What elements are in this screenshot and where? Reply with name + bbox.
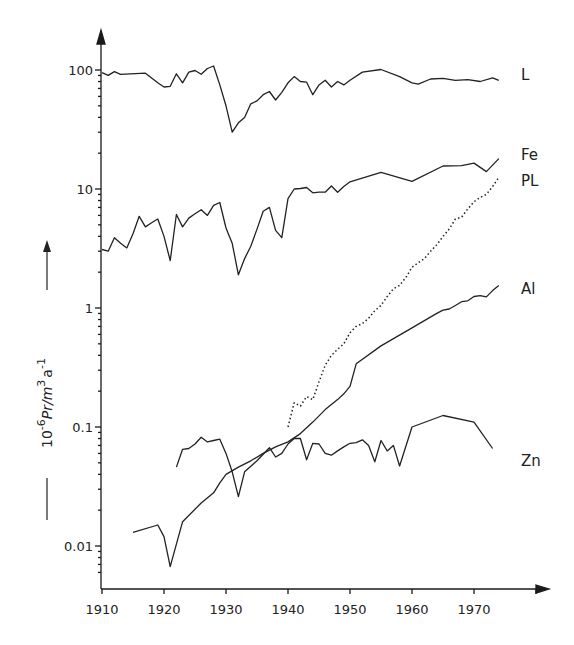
series-line-Zn bbox=[176, 416, 492, 497]
y-axis-arrow-icon bbox=[97, 30, 105, 44]
tick-labels: 0.010.1110100191019201930194019501960197… bbox=[64, 63, 491, 617]
series-labels: L Fe PL Al Zn bbox=[521, 66, 541, 470]
series-line-PL bbox=[288, 178, 499, 428]
line-chart: 0.010.1110100191019201930194019501960197… bbox=[0, 0, 574, 645]
y-axis-label-text: 10-6Pr/m3a-1 bbox=[35, 358, 55, 448]
series-label-PL: PL bbox=[521, 172, 539, 190]
y-tick-label: 10 bbox=[76, 182, 93, 197]
x-tick-label: 1920 bbox=[147, 602, 180, 617]
y-tick-label: 0.01 bbox=[64, 539, 93, 554]
y-tick-label: 0.1 bbox=[72, 420, 93, 435]
series-label-Fe: Fe bbox=[521, 146, 538, 164]
x-tick-label: 1930 bbox=[209, 602, 242, 617]
series-line-L bbox=[102, 66, 499, 132]
x-tick-label: 1910 bbox=[85, 602, 118, 617]
x-axis-arrow-icon bbox=[536, 585, 549, 593]
series-label-Zn: Zn bbox=[521, 452, 541, 470]
x-tick-label: 1940 bbox=[271, 602, 304, 617]
series-label-Al: Al bbox=[521, 280, 535, 298]
y-tick-label: 100 bbox=[68, 63, 93, 78]
x-tick-label: 1970 bbox=[457, 602, 490, 617]
series-lines bbox=[102, 66, 499, 567]
series-line-Fe bbox=[102, 159, 499, 275]
x-tick-label: 1960 bbox=[395, 602, 428, 617]
y-tick-label: 1 bbox=[85, 301, 93, 316]
series-line-Al bbox=[133, 285, 499, 566]
series-label-L: L bbox=[521, 66, 530, 84]
axes bbox=[95, 30, 549, 594]
x-ticks bbox=[102, 589, 536, 594]
y-label-arrow-icon bbox=[43, 240, 51, 252]
x-tick-label: 1950 bbox=[333, 602, 366, 617]
y-axis-label: 10-6Pr/m3a-1 bbox=[35, 240, 55, 520]
